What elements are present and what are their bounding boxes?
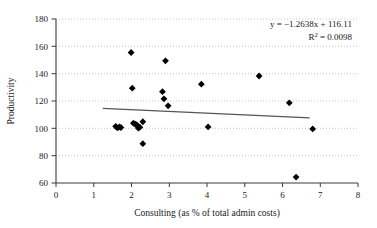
data-point-marker [159, 88, 166, 95]
data-point-marker [293, 174, 300, 181]
y-tick-label: 180 [35, 14, 49, 24]
trendline [103, 108, 310, 117]
x-axis-title: Consulting (as % of total admin costs) [134, 208, 280, 219]
x-tick-label: 6 [280, 190, 285, 200]
data-point-marker [128, 49, 135, 56]
x-tick-label: 4 [205, 190, 210, 200]
y-tick-label: 100 [35, 124, 49, 134]
data-point-marker [162, 57, 169, 64]
data-point-marker [286, 99, 293, 106]
data-point-marker [129, 85, 136, 92]
r-squared-value: = 0.0098 [318, 32, 353, 42]
y-tick-label: 80 [39, 151, 49, 161]
x-tick-labels: 0 1 2 3 4 5 6 7 8 [54, 190, 361, 200]
x-tick-label: 7 [318, 190, 323, 200]
data-point-marker [256, 73, 263, 80]
y-tick-label: 140 [35, 69, 49, 79]
y-tick-label: 60 [39, 178, 49, 188]
data-point-marker [198, 81, 205, 88]
x-tick-label: 0 [54, 190, 59, 200]
x-tick-label: 3 [167, 190, 172, 200]
data-point-marker [205, 124, 212, 131]
y-tick-label: 160 [35, 42, 49, 52]
y-axis-title: Productivity [6, 77, 16, 124]
x-tick-label: 5 [243, 190, 248, 200]
scatter-points [112, 49, 316, 180]
x-tick-label: 2 [129, 190, 134, 200]
svg-text:R2 = 0.0098: R2 = 0.0098 [308, 31, 352, 43]
data-point-marker [139, 140, 146, 147]
data-point-marker [165, 102, 172, 109]
x-tick-label: 1 [92, 190, 97, 200]
equation-annotation: y = −1.2638x + 116.11 R2 = 0.0098 [270, 19, 353, 42]
data-point-marker [309, 125, 316, 132]
x-tick-label: 8 [356, 190, 361, 200]
scatter-chart: 180 160 140 120 100 80 60 0 1 2 3 4 5 6 … [0, 0, 377, 228]
data-point-marker [139, 118, 146, 125]
x-axis-ticks [56, 183, 358, 187]
y-axis-ticks [52, 19, 57, 183]
y-tick-labels: 180 160 140 120 100 80 60 [35, 14, 49, 188]
chart-canvas: 180 160 140 120 100 80 60 0 1 2 3 4 5 6 … [0, 0, 377, 228]
regression-equation: y = −1.2638x + 116.11 [270, 19, 352, 29]
y-tick-label: 120 [35, 96, 49, 106]
